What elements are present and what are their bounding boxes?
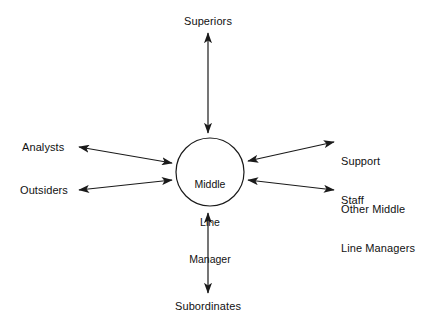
- arrow-analysts: [79, 147, 172, 163]
- center-node-line-2: Line: [176, 216, 244, 229]
- node-label-analysts: Analysts: [22, 141, 64, 154]
- other-middle-line-2: Line Managers: [341, 242, 415, 255]
- arrow-other-middle-line: [248, 180, 334, 190]
- support-staff-line-1: Support: [341, 155, 380, 168]
- other-middle-line-1: Other Middle: [341, 203, 415, 216]
- node-label-superiors: Superiors: [178, 15, 238, 28]
- center-node-label: Middle Line Manager: [176, 153, 244, 291]
- arrow-outsiders: [79, 180, 172, 190]
- center-node-line-1: Middle: [176, 178, 244, 191]
- node-label-subordinates: Subordinates: [166, 300, 250, 313]
- node-label-other-middle-line: Other Middle Line Managers: [341, 177, 415, 281]
- center-node-line-3: Manager: [176, 253, 244, 266]
- node-label-outsiders: Outsiders: [20, 184, 68, 197]
- arrow-support-staff: [248, 142, 334, 161]
- diagram-canvas: Middle Line Manager Superiors Subordinat…: [0, 0, 432, 325]
